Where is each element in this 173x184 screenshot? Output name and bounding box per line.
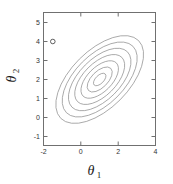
y-axis-title-subscript: 2 xyxy=(11,69,21,74)
x-tick-label-0: -2 xyxy=(40,148,46,155)
y-tick-label-0: 5 xyxy=(36,19,40,26)
y-tick-label-1: 4 xyxy=(36,38,40,45)
x-axis-title: θ 1 xyxy=(88,163,102,180)
contour-ring-4 xyxy=(66,46,133,113)
y-tick-label-2: 3 xyxy=(36,57,40,64)
plot-frame xyxy=(44,13,156,146)
y-axis-title-symbol: θ xyxy=(4,75,19,82)
contour-plot-figure: -2 0 2 4 5 4 3 2 1 0 -1 θ 1 θ 2 xyxy=(0,0,173,184)
x-axis-title-symbol: θ xyxy=(88,163,95,178)
contour-ring-3 xyxy=(74,54,125,105)
x-axis-ticks xyxy=(44,13,156,146)
contour-ring-5 xyxy=(57,37,141,121)
contour-ring-7 xyxy=(40,20,159,139)
y-axis-title: θ 2 xyxy=(4,69,21,83)
y-tick-label-6: -1 xyxy=(34,133,40,140)
plot-canvas: -2 0 2 4 5 4 3 2 1 0 -1 θ 1 θ 2 xyxy=(0,0,173,184)
x-axis-title-subscript: 1 xyxy=(97,170,102,180)
start-point-marker xyxy=(51,39,56,44)
y-tick-label-5: 0 xyxy=(36,114,40,121)
x-tick-label-3: 4 xyxy=(154,148,158,155)
y-axis-ticks xyxy=(44,23,156,137)
x-tick-label-2: 2 xyxy=(116,148,120,155)
y-tick-label-3: 2 xyxy=(36,76,40,83)
contour-ellipses xyxy=(40,20,159,139)
x-tick-label-1: 0 xyxy=(79,148,83,155)
contour-ring-6 xyxy=(49,29,150,130)
y-tick-label-4: 1 xyxy=(36,95,40,102)
